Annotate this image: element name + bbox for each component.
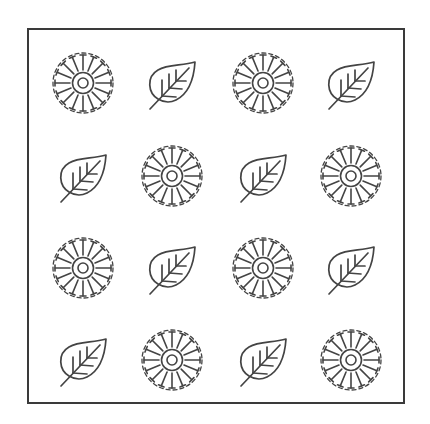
sun-icon bbox=[223, 228, 303, 308]
leaf-icon bbox=[311, 43, 391, 123]
leaf-icon bbox=[132, 228, 212, 308]
leaf-icon bbox=[311, 228, 391, 308]
leaf-icon bbox=[43, 320, 123, 400]
sun-icon bbox=[223, 43, 303, 123]
sun-icon bbox=[132, 320, 212, 400]
sun-icon bbox=[311, 136, 391, 216]
leaf-icon bbox=[223, 320, 303, 400]
leaf-icon bbox=[43, 136, 123, 216]
sun-icon bbox=[43, 43, 123, 123]
sun-icon bbox=[43, 228, 123, 308]
leaf-icon bbox=[223, 136, 303, 216]
sun-icon bbox=[132, 136, 212, 216]
sun-icon bbox=[311, 320, 391, 400]
leaf-icon bbox=[132, 43, 212, 123]
